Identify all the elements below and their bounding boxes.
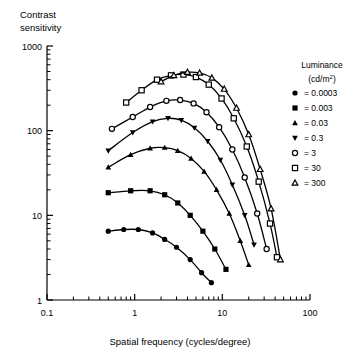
data-point-filled-square	[292, 105, 297, 110]
data-point-filled-circle	[174, 245, 179, 250]
data-point-open-square	[219, 96, 224, 101]
legend-units-close: )	[333, 74, 336, 84]
data-point-filled-circle	[188, 257, 193, 262]
data-point-filled-circle	[292, 90, 297, 95]
legend-item-label: = 0.0003	[304, 88, 338, 98]
y-tick-label: 1	[37, 296, 42, 306]
legend-item-label: = 0.03	[304, 118, 328, 128]
data-point-open-square	[231, 116, 236, 121]
data-point-filled-circle	[106, 229, 111, 234]
data-point-filled-square	[200, 229, 205, 234]
data-point-open-circle	[264, 246, 269, 251]
legend-title: Luminance	[301, 60, 343, 70]
data-point-open-circle	[178, 97, 183, 102]
data-point-open-square	[292, 165, 297, 170]
x-axis-label-text: Spatial frequency (cycles/degree)	[110, 336, 251, 347]
x-tick-label: 10	[217, 308, 227, 318]
legend-item-label: = 300	[304, 178, 326, 188]
data-point-open-square	[256, 179, 261, 184]
data-point-filled-square	[162, 192, 167, 197]
data-point-open-square	[124, 100, 129, 105]
data-point-filled-circle	[121, 227, 126, 232]
data-point-open-circle	[148, 104, 153, 109]
data-point-open-circle	[217, 125, 222, 130]
data-point-open-square	[206, 82, 211, 87]
data-point-filled-circle	[150, 230, 155, 235]
y-tick-label: 10	[32, 211, 42, 221]
data-point-open-square	[267, 221, 272, 226]
data-point-open-circle	[164, 98, 169, 103]
y-tick-label: 100	[27, 126, 42, 136]
legend-item-label: = 30	[304, 163, 321, 173]
data-point-open-circle	[109, 126, 114, 131]
x-tick-label: 1	[132, 308, 137, 318]
data-point-filled-circle	[209, 280, 214, 285]
data-point-open-circle	[242, 175, 247, 180]
legend-item-label: = 0.003	[304, 103, 333, 113]
legend-item-label: = 3	[304, 148, 316, 158]
legend-item-label: = 0.3	[304, 133, 323, 143]
data-point-open-circle	[255, 211, 260, 216]
data-point-filled-square	[188, 213, 193, 218]
data-point-filled-square	[223, 267, 228, 272]
y-tick-label: 1000	[22, 42, 42, 52]
data-point-filled-square	[148, 188, 153, 193]
x-tick-label: 0.1	[41, 308, 54, 318]
data-point-filled-square	[128, 188, 133, 193]
data-point-open-circle	[130, 114, 135, 119]
x-axis-label: Spatial frequency (cycles/degree)	[110, 336, 251, 347]
data-point-open-circle	[191, 101, 196, 106]
data-point-filled-circle	[162, 237, 167, 242]
y-axis-label-line2: sensitivity	[20, 22, 61, 33]
data-point-filled-circle	[199, 270, 204, 275]
x-tick-label: 100	[302, 308, 317, 318]
data-point-filled-square	[106, 190, 111, 195]
data-point-filled-circle	[136, 227, 141, 232]
data-point-open-circle	[292, 150, 297, 155]
data-point-open-square	[244, 144, 249, 149]
data-point-filled-square	[175, 200, 180, 205]
data-point-open-square	[139, 88, 144, 93]
data-point-filled-square	[212, 246, 217, 251]
contrast-sensitivity-chart: Contrast sensitivity 0.11101001101001000…	[0, 0, 362, 353]
data-point-open-circle	[230, 147, 235, 152]
data-point-open-circle	[204, 110, 209, 115]
y-axis-label-line1: Contrast	[20, 9, 56, 20]
